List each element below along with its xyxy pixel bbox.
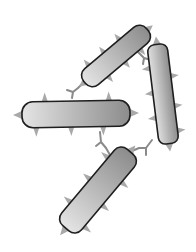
bacterium-left xyxy=(13,91,140,137)
diagram-svg xyxy=(0,0,196,252)
antibody-icon xyxy=(96,132,110,155)
antibody-icon xyxy=(132,140,152,155)
bacteria-agglutination-diagram xyxy=(0,0,196,252)
bacterium-right xyxy=(138,34,188,154)
